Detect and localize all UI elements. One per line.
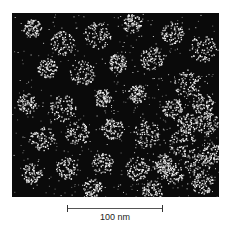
scale-bar <box>67 207 163 210</box>
scale-bar-right-tick <box>162 205 163 212</box>
electron-micrograph <box>12 13 219 197</box>
micrograph-particles <box>12 13 219 197</box>
scale-bar-label: 100 nm <box>67 212 163 222</box>
scale-bar-left-tick <box>67 205 68 212</box>
scale-bar-line <box>67 208 163 209</box>
